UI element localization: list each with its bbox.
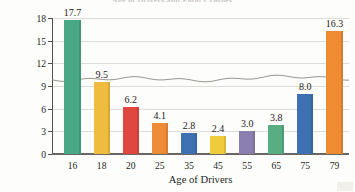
- bar[interactable]: [326, 31, 342, 154]
- bar-value-label: 2.4: [212, 123, 225, 134]
- scan-speckle: [337, 182, 353, 191]
- gridline: [53, 63, 349, 64]
- y-axis-tick: [48, 86, 52, 87]
- bar[interactable]: [297, 94, 313, 154]
- bar[interactable]: [239, 131, 255, 154]
- bar[interactable]: [64, 20, 80, 154]
- y-axis-tick: [48, 109, 52, 110]
- x-axis-tick-label: 79: [330, 160, 340, 171]
- bar[interactable]: [210, 136, 226, 154]
- y-axis-tick-label: 0: [41, 149, 46, 160]
- x-axis-tick-label: 65: [271, 160, 281, 171]
- y-axis-tick: [48, 41, 52, 42]
- y-axis-tick: [48, 131, 52, 132]
- x-axis-tick-label: 75: [301, 160, 311, 171]
- x-axis-tick-label: 55: [242, 160, 252, 171]
- fatal-crashes-by-driver-age-chart: Age of Drivers and Fatal Crashes Fatal C…: [0, 0, 355, 192]
- bar-value-label: 8.0: [299, 81, 312, 92]
- gridline: [53, 41, 349, 42]
- y-axis-tick: [48, 154, 52, 155]
- x-axis-tick-label: 25: [155, 160, 165, 171]
- bar[interactable]: [268, 125, 284, 154]
- y-axis-tick-label: 12: [36, 58, 46, 69]
- bar-value-label: 3.0: [241, 118, 254, 129]
- x-axis-tick-label: 45: [213, 160, 223, 171]
- y-axis-tick-label: 15: [36, 35, 46, 46]
- bar-value-label: 6.2: [125, 94, 138, 105]
- bar[interactable]: [152, 123, 168, 154]
- x-axis-tick-label: 20: [126, 160, 136, 171]
- y-axis-tick-label: 9: [41, 81, 46, 92]
- bar-value-label: 3.8: [270, 112, 283, 123]
- plot-area: 036912151817.7169.5186.2204.1252.8352.44…: [52, 18, 349, 155]
- chart-title-remnant: Age of Drivers and Fatal Crashes: [112, 0, 242, 2]
- y-axis-tick-label: 3: [41, 126, 46, 137]
- gridline: [53, 18, 349, 19]
- x-axis-tick-label: 18: [97, 160, 107, 171]
- y-axis-tick: [48, 63, 52, 64]
- bar-value-label: 16.3: [326, 18, 344, 29]
- bar[interactable]: [94, 82, 110, 154]
- bar[interactable]: [181, 133, 197, 154]
- x-axis-tick-label: 16: [68, 160, 78, 171]
- y-axis-tick-label: 18: [36, 13, 46, 24]
- bar[interactable]: [123, 107, 139, 154]
- y-axis-tick-label: 6: [41, 103, 46, 114]
- y-axis-tick: [48, 18, 52, 19]
- x-axis-tick-label: 35: [184, 160, 194, 171]
- x-axis-title: Age of Drivers: [52, 174, 349, 185]
- bar-value-label: 2.8: [183, 120, 196, 131]
- bar-value-label: 17.7: [64, 7, 82, 18]
- bar-value-label: 9.5: [95, 69, 108, 80]
- bar-value-label: 4.1: [154, 110, 167, 121]
